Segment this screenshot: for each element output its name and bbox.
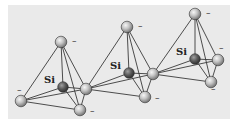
silicon-atom	[190, 54, 201, 65]
negative-charge-label: –	[206, 8, 211, 18]
silicon-label: Si	[176, 46, 187, 57]
negative-charge-label: –	[138, 21, 143, 31]
silicon-atom	[58, 82, 69, 93]
silicon-label: Si	[44, 74, 55, 85]
negative-charge-label: –	[211, 84, 216, 94]
oxygen-atom	[15, 95, 27, 107]
silicate-chain-diagram: –Si–––Si––Si––	[0, 0, 238, 127]
oxygen-atom	[147, 68, 159, 80]
negative-charge-label: –	[17, 85, 22, 95]
oxygen-atom	[189, 8, 201, 20]
oxygen-atom	[121, 21, 133, 33]
oxygen-atom	[80, 83, 92, 95]
oxygen-atom	[55, 36, 67, 48]
silicon-atom	[124, 68, 135, 79]
oxygen-atom	[74, 104, 86, 116]
oxygen-atom	[212, 54, 224, 66]
oxygen-atom	[139, 91, 151, 103]
negative-charge-label: –	[219, 43, 224, 53]
silicon-label: Si	[110, 60, 121, 71]
negative-charge-label: –	[155, 93, 160, 103]
negative-charge-label: –	[72, 36, 77, 46]
negative-charge-label: –	[90, 106, 95, 116]
